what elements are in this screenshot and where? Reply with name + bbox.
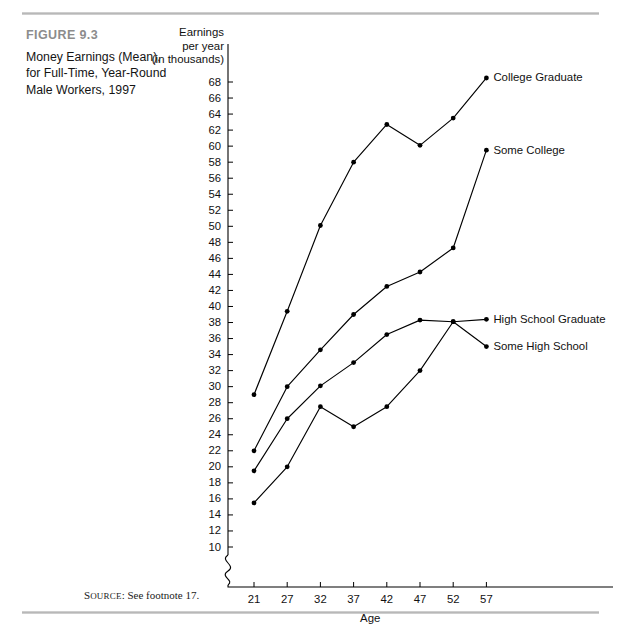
y-tick-label: 58	[195, 157, 221, 168]
y-tick-label: 38	[195, 317, 221, 328]
series-label-high-school-graduate: High School Graduate	[493, 313, 605, 325]
series-label-some-college: Some College	[493, 144, 565, 156]
y-tick-label: 12	[195, 525, 221, 536]
y-tick-label: 50	[195, 221, 221, 232]
x-tick-label: 47	[405, 594, 435, 605]
y-tick-label: 66	[195, 93, 221, 104]
bottom-divider	[22, 611, 599, 614]
x-tick-label: 52	[438, 594, 468, 605]
y-tick-label: 30	[195, 381, 221, 392]
y-tick-label: 26	[195, 413, 221, 424]
line-chart-plot	[176, 22, 621, 592]
y-tick-label: 14	[195, 509, 221, 520]
source-note: SOURCE: See footnote 17.	[84, 589, 199, 601]
y-tick-label: 10	[195, 542, 221, 553]
y-tick-label: 24	[195, 429, 221, 440]
y-tick-label: 52	[195, 205, 221, 216]
source-smallcaps: OURCE	[90, 591, 122, 601]
y-tick-label: 68	[195, 77, 221, 88]
y-tick-label: 20	[195, 461, 221, 472]
y-tick-label: 16	[195, 493, 221, 504]
x-tick-label: 27	[272, 594, 302, 605]
y-tick-label: 42	[195, 285, 221, 296]
y-tick-label: 46	[195, 253, 221, 264]
x-axis-title: Age	[350, 612, 390, 624]
x-tick-label: 21	[239, 594, 269, 605]
y-tick-label: 18	[195, 477, 221, 488]
y-tick-label: 36	[195, 333, 221, 344]
source-text: : See footnote 17.	[122, 589, 200, 601]
x-tick-label: 32	[305, 594, 335, 605]
y-tick-label: 44	[195, 269, 221, 280]
y-tick-label: 54	[195, 189, 221, 200]
y-tick-label: 32	[195, 365, 221, 376]
top-divider	[22, 12, 599, 15]
y-tick-label: 56	[195, 173, 221, 184]
y-tick-label: 60	[195, 141, 221, 152]
figure-page: FIGURE 9.3 Money Earnings (Mean), for Fu…	[0, 0, 621, 634]
y-tick-label: 62	[195, 125, 221, 136]
x-tick-label: 57	[471, 594, 501, 605]
y-tick-label: 22	[195, 445, 221, 456]
chart-container: Earningsper year(in thousands) Age 10121…	[176, 22, 621, 592]
x-tick-label: 42	[372, 594, 402, 605]
y-tick-label: 64	[195, 109, 221, 120]
x-tick-label: 37	[339, 594, 369, 605]
series-label-college-graduate: College Graduate	[493, 71, 582, 83]
y-tick-label: 48	[195, 237, 221, 248]
y-tick-label: 28	[195, 397, 221, 408]
series-label-some-high-school: Some High School	[493, 340, 587, 352]
y-tick-label: 40	[195, 301, 221, 312]
y-tick-label: 34	[195, 349, 221, 360]
